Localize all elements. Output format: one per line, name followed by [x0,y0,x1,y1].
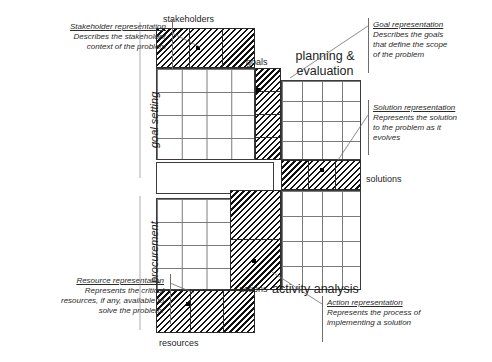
annotation-goal-line2: that define the scope [373,40,489,50]
strip-label-goals: goals [246,57,268,68]
strip-label-resources: resources [159,338,199,349]
annotation-solution-line1: Represents the solution [373,113,489,123]
annotation-resource-title: Resource representation [12,276,164,286]
annotation-action-line1: Represents the process of [327,308,477,318]
annotation-solution-bar [368,100,369,155]
annotation-resource-line2: resources, if any, available to [12,296,164,306]
annotation-goal-line1: Describes the goals [373,30,489,40]
diagram-canvas: stakeholders goals solutions actions res… [0,0,492,362]
strip-label-solutions: solutions [366,174,402,185]
quadrant-label-planning-evaluation: planning & evaluation [288,49,362,79]
annotation-resource-bar [170,274,171,324]
annotation-action-bar [322,296,323,342]
marker-stakeholders [196,46,200,50]
axis-label-procurement: procurement [148,221,160,283]
block-goal-setting-grid [156,68,255,160]
strip-label-actions: actions [239,284,268,295]
annotation-stakeholder-line2: context of the problem [14,42,166,52]
annotation-solution-title: Solution representation [373,103,489,113]
annotation-goal: Goal representation Describes the goals … [373,20,489,60]
annotation-solution-line2: to the problem as it [373,123,489,133]
annotation-solution: Solution representation Represents the s… [373,103,489,143]
quadrant-label-planning-line2: evaluation [297,64,354,78]
strip-label-stakeholders: stakeholders [163,14,214,25]
annotation-resource-line3: solve the problem. [12,306,164,316]
annotation-solution-line3: evolves [373,133,489,143]
block-solutions [281,160,361,190]
annotation-goal-title: Goal representation [373,20,489,30]
marker-actions [252,259,256,263]
quadrant-label-activity-analysis: activity analysis [272,282,359,296]
block-actions [230,190,281,290]
marker-goals [256,88,260,92]
annotation-resource-line1: Represents the critical [12,286,164,296]
annotation-stakeholder-title: Stakeholder representation [14,22,166,32]
block-stakeholders [156,28,255,68]
annotation-goal-line3: of the problem [373,50,489,60]
annotation-action-line2: implementing a solution [327,318,477,328]
block-goals [255,68,281,160]
annotation-action: Action representation Represents the pro… [327,298,477,328]
axis-label-goal-setting: goal setting [148,92,160,148]
block-planning-evaluation-grid [281,80,361,160]
annotation-action-title: Action representation [327,298,477,308]
annotation-resource: Resource representation Represents the c… [12,276,164,316]
annotation-stakeholder-bar [172,20,173,70]
quadrant-label-planning-line1: planning & [295,49,354,63]
annotation-stakeholder: Stakeholder representation Describes the… [14,22,166,52]
block-activity-analysis-grid [281,190,361,290]
marker-solutions [320,168,324,172]
annotation-stakeholder-line1: Describes the stakeholder [14,32,166,42]
marker-resources [186,302,190,306]
annotation-goal-bar [368,18,369,73]
